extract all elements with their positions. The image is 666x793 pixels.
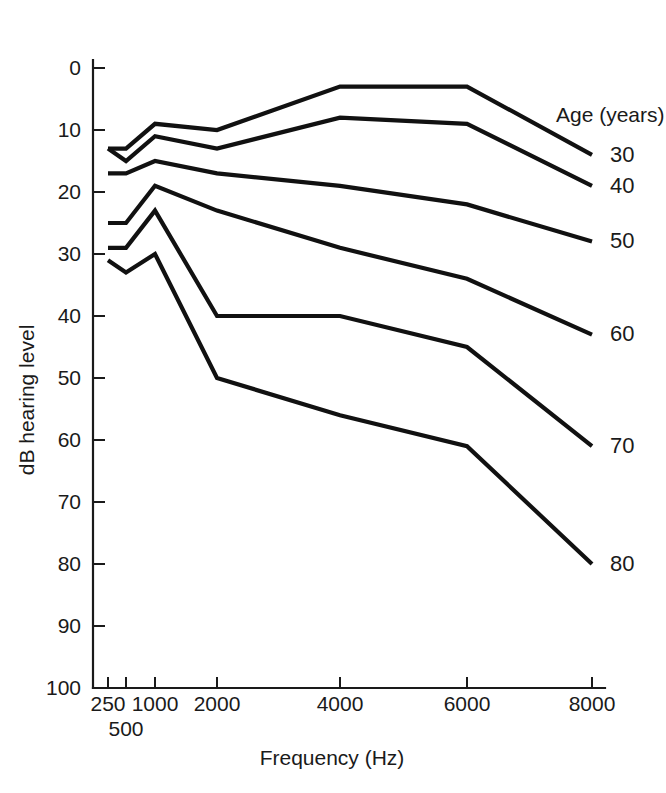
y-tick-label-40: 40 (58, 304, 81, 327)
x-tick-label-2000: 2000 (194, 692, 241, 715)
audiogram-figure: 0102030405060708090100 25050010002000400… (0, 0, 666, 793)
x-tick-label-1000: 1000 (132, 692, 179, 715)
y-tick-label-20: 20 (58, 180, 81, 203)
series-label-30: 30 (610, 142, 634, 167)
series-line-60 (108, 186, 592, 335)
series-label-70: 70 (610, 433, 634, 458)
y-axis-ticks (93, 68, 105, 626)
x-axis-ticks (108, 677, 592, 688)
series-label-80: 80 (610, 551, 634, 576)
series-line-30 (108, 87, 592, 155)
data-curves (108, 87, 592, 564)
y-tick-label-10: 10 (58, 118, 81, 141)
y-tick-label-80: 80 (58, 552, 81, 575)
y-tick-label-100: 100 (46, 676, 81, 699)
x-tick-label-4000: 4000 (317, 692, 364, 715)
y-tick-label-60: 60 (58, 428, 81, 451)
series-label-50: 50 (610, 228, 634, 253)
y-axis-tick-labels: 0102030405060708090100 (46, 56, 81, 699)
legend-title: Age (years) (556, 103, 665, 126)
y-tick-label-90: 90 (58, 614, 81, 637)
x-tick-label-250: 250 (90, 692, 125, 715)
y-tick-label-0: 0 (69, 56, 81, 79)
audiogram-plot: 0102030405060708090100 25050010002000400… (0, 0, 666, 793)
series-line-70 (108, 211, 592, 447)
series-label-40: 40 (610, 173, 634, 198)
series-label-60: 60 (610, 321, 634, 346)
y-axis-title: dB hearing level (15, 325, 38, 476)
x-axis-title: Frequency (Hz) (260, 746, 405, 769)
y-tick-label-30: 30 (58, 242, 81, 265)
series-line-50 (108, 161, 592, 242)
x-axis-tick-labels: 25050010002000400060008000 (90, 692, 615, 740)
x-tick-label-6000: 6000 (444, 692, 491, 715)
y-tick-label-50: 50 (58, 366, 81, 389)
x-tick-label-500: 500 (108, 717, 143, 740)
series-labels: 304050607080 (610, 142, 634, 576)
x-tick-label-8000: 8000 (569, 692, 616, 715)
y-tick-label-70: 70 (58, 490, 81, 513)
